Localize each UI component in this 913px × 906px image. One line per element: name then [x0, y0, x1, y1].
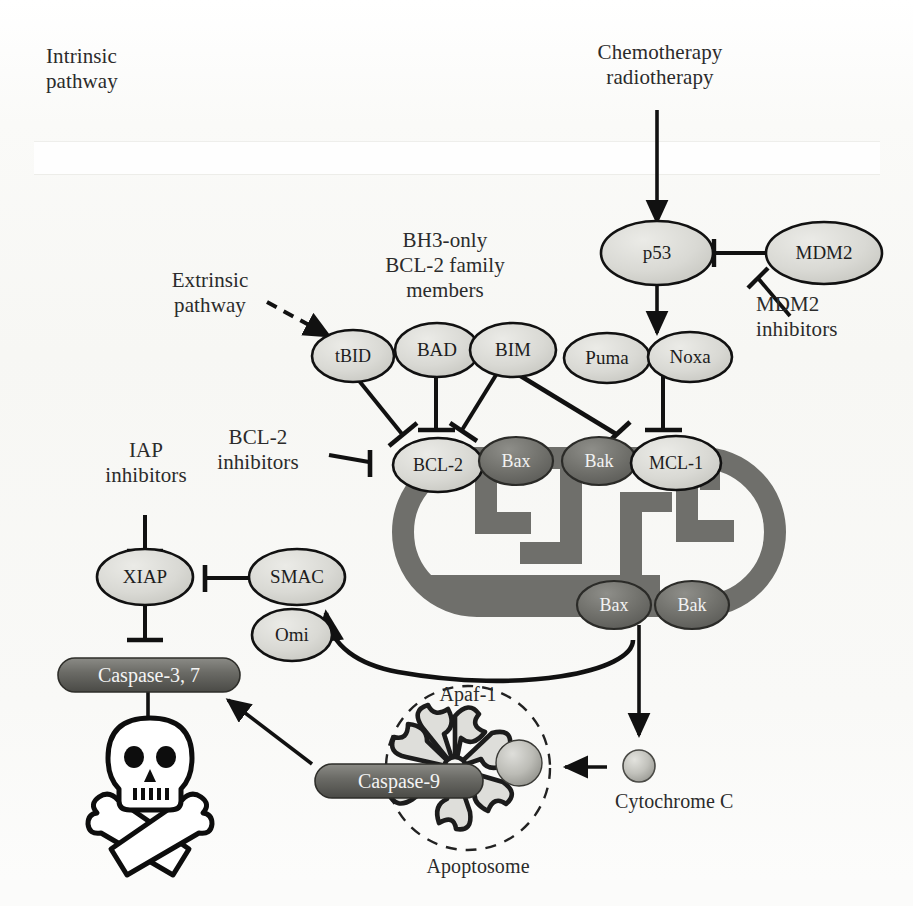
node-puma	[564, 333, 650, 383]
node-bak-top	[562, 437, 636, 485]
node-p53	[601, 221, 713, 285]
node-bad	[395, 323, 479, 377]
node-smac	[249, 549, 345, 605]
node-tbid	[312, 330, 394, 382]
skull-and-crossbones-icon	[88, 718, 212, 875]
annotation-intrinsic-pathway: Intrinsic pathway	[46, 44, 226, 94]
node-caspase-3-7	[58, 658, 240, 692]
node-bax-top	[479, 437, 553, 485]
node-mcl1	[631, 436, 721, 490]
node-mdm2	[766, 222, 882, 284]
annotation-chemotherapy-radiotherapy: Chemotherapy radiotherapy	[565, 40, 755, 90]
cytochrome-c-sphere	[623, 750, 655, 782]
node-xiap	[97, 549, 193, 605]
annotation-mdm2-inhibitors: MDM2 inhibitors	[756, 292, 896, 342]
node-noxa	[648, 332, 732, 382]
node-omi	[252, 609, 332, 661]
apaf1-bound-sphere	[496, 740, 542, 786]
figure-canvas: Intrinsic pathway Chemotherapy radiother…	[0, 0, 913, 906]
node-bcl2	[393, 438, 483, 492]
node-bim	[470, 323, 556, 377]
annotation-cytochrome-c: Cytochrome C	[615, 790, 815, 814]
node-caspase-9	[315, 764, 483, 798]
annotation-apoptosome: Apoptosome	[398, 855, 558, 879]
node-bak-bottom	[655, 581, 729, 629]
annotation-extrinsic-pathway: Extrinsic pathway	[140, 268, 280, 318]
annotation-iap-inhibitors: IAP inhibitors	[76, 438, 216, 488]
annotation-apaf1: Apaf-1	[408, 683, 528, 707]
node-bax-bottom	[577, 581, 651, 629]
annotation-bh3-only-family: BH3-only BCL-2 family members	[345, 228, 545, 302]
